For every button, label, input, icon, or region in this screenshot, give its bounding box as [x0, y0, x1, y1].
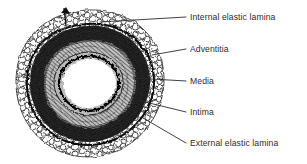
label-adventitia: Adventitia — [190, 45, 229, 54]
artery-cross-section-diagram: Internal elastic lamina Adventitia Media… — [0, 0, 307, 164]
label-internal-elastic-lamina: Internal elastic lamina — [190, 13, 275, 22]
label-intima: Intima — [190, 108, 214, 117]
label-media: Media — [190, 77, 214, 86]
label-external-elastic-lamina: External elastic lamina — [190, 139, 278, 148]
